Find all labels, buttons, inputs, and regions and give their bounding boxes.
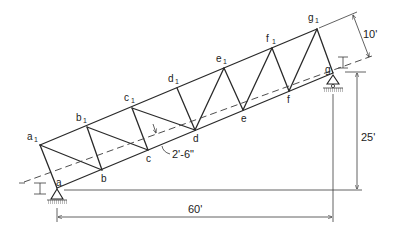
node-label-c1: c 1 [124, 92, 135, 104]
span-label: 60' [188, 203, 202, 215]
depth-label: 10' [363, 28, 377, 40]
node-label-g: g [325, 64, 331, 75]
node-label-a1: a 1 [27, 131, 38, 143]
offset-label: 2'-6" [172, 148, 194, 160]
node-label-f1: f 1 [266, 33, 276, 45]
node-label-d: d [193, 133, 199, 144]
top-chord [40, 29, 317, 145]
diagonal-members-left [40, 108, 195, 170]
svg-text:1: 1 [83, 117, 87, 124]
svg-text:1: 1 [131, 97, 135, 104]
node-label-e1: e 1 [216, 53, 227, 65]
node-label-g1: g 1 [308, 12, 319, 24]
svg-text:e: e [216, 53, 222, 64]
offset-leader [162, 146, 170, 154]
node-label-d1: d 1 [168, 73, 179, 85]
node-label-c: c [146, 153, 151, 164]
svg-text:f: f [266, 33, 269, 44]
node-label-a: a [56, 177, 62, 188]
svg-text:g: g [308, 12, 314, 23]
offset-arrow [153, 124, 156, 133]
bearing-symbol-right [338, 57, 348, 68]
svg-text:1: 1 [315, 17, 319, 24]
roller-support-g [323, 75, 343, 92]
truss-diagram: 2'-6" 60' 25' 10' a 1 [0, 0, 394, 236]
svg-text:1: 1 [223, 58, 227, 65]
svg-text:1: 1 [272, 38, 276, 45]
node-label-b: b [101, 173, 107, 184]
node-label-e: e [241, 113, 247, 124]
svg-text:1: 1 [34, 136, 38, 143]
rise-label: 25' [361, 131, 375, 143]
node-label-b1: b 1 [76, 112, 87, 124]
svg-text:c: c [124, 92, 129, 103]
svg-text:b: b [76, 112, 82, 123]
node-label-f: f [287, 94, 290, 105]
bearing-symbol-left [34, 183, 46, 194]
diagonal-members-right [195, 29, 317, 130]
svg-text:1: 1 [175, 78, 179, 85]
depth-ext-top [319, 12, 357, 28]
svg-text:d: d [168, 73, 174, 84]
pin-support-a [47, 189, 67, 204]
svg-text:a: a [27, 131, 33, 142]
